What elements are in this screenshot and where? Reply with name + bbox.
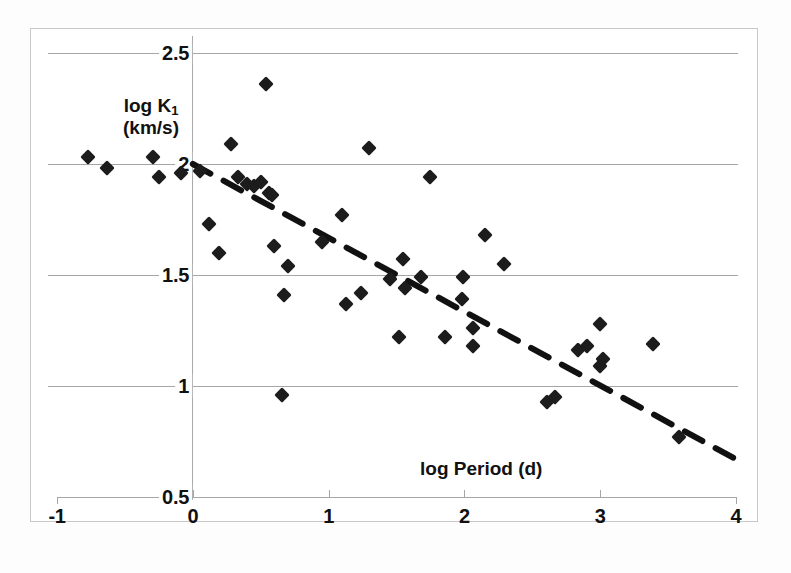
x-tick-label-0: 0 [187,505,198,528]
y-tick-label-2.5: 2.5 [159,42,192,65]
y-tick-label-1.5: 1.5 [159,264,192,287]
x-tick-label--1: -1 [48,505,65,528]
x-tick-label-2: 2 [459,505,470,528]
x-tick-label-3: 3 [595,505,606,528]
x-tick-label-4: 4 [731,505,742,528]
y-axis-title: log K1 (km/s) [108,95,194,139]
y-axis-title-line1: log K1 [124,95,179,116]
figure-container: 0.511.522.5 -101234 log K1 (km/s) log Pe… [0,0,791,573]
x-tick-label-1: 1 [323,505,334,528]
y-axis-title-subscript: 1 [171,103,178,118]
x-axis-title: log Period (d) [420,458,542,480]
y-axis-title-line2: (km/s) [123,117,179,138]
y-tick-label-1: 1 [175,375,192,398]
